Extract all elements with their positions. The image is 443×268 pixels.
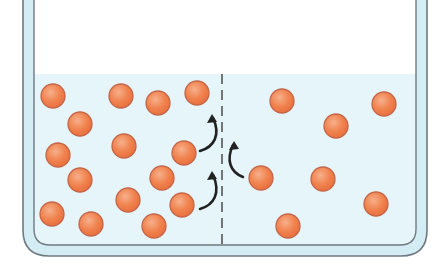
particle: [372, 92, 396, 116]
particle: [249, 166, 273, 190]
particle: [146, 91, 170, 115]
particle: [112, 134, 136, 158]
particle: [116, 188, 140, 212]
particle: [324, 114, 348, 138]
particle: [185, 81, 209, 105]
particle: [142, 214, 166, 238]
particle: [276, 214, 300, 238]
particle: [311, 167, 335, 191]
particle: [172, 141, 196, 165]
particle: [68, 168, 92, 192]
particle: [79, 212, 103, 236]
particle: [68, 112, 92, 136]
particle: [364, 192, 388, 216]
particle: [41, 84, 65, 108]
particle: [109, 84, 133, 108]
diagram-canvas: [0, 0, 443, 268]
particle: [40, 202, 64, 226]
particle: [170, 193, 194, 217]
particle: [46, 143, 70, 167]
particle: [270, 89, 294, 113]
particle: [150, 166, 174, 190]
diffusion-diagram: [0, 0, 443, 268]
